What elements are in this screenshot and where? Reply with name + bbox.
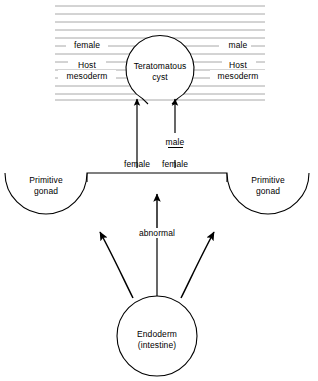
host-mesoderm-right-line1: Host	[218, 60, 259, 71]
arrow-endoderm-to-right-gonad	[181, 232, 214, 298]
cyst-gap-tail-left	[143, 99, 149, 104]
label-primitive-gonad-left: Primitive gonad	[29, 175, 63, 196]
endoderm-line1: Endoderm	[137, 329, 177, 340]
teratomatous-cyst-line1: Teratomatous	[134, 61, 187, 72]
label-male-host-right: male	[229, 40, 248, 51]
primitive-gonad-right-line2: gonad	[251, 186, 285, 197]
diagram-canvas: female male Host mesoderm Host mesoderm …	[0, 0, 318, 381]
label-female-host-left: female	[74, 40, 100, 51]
label-female-denominator: female	[162, 159, 188, 170]
host-mesoderm-left-line1: Host	[67, 60, 108, 71]
label-teratomatous-cyst: Teratomatous cyst	[134, 61, 187, 82]
primitive-gonad-left-line2: gonad	[29, 186, 63, 197]
label-male-numerator: male	[166, 137, 185, 148]
primitive-gonad-left-line1: Primitive	[29, 175, 63, 186]
endoderm-line2: (intestine)	[137, 340, 177, 351]
label-primitive-gonad-right: Primitive gonad	[251, 175, 285, 196]
primitive-gonad-right-line1: Primitive	[251, 175, 285, 186]
gonad-connector-bar	[87, 173, 227, 182]
label-host-mesoderm-right: Host mesoderm	[218, 60, 259, 81]
label-female-left-path: female	[124, 159, 150, 170]
host-mesoderm-left-line2: mesoderm	[67, 71, 108, 82]
label-abnormal: abnormal	[139, 228, 175, 239]
host-mesoderm-right-line2: mesoderm	[218, 71, 259, 82]
label-endoderm: Endoderm (intestine)	[137, 329, 177, 350]
arrow-endoderm-to-left-gonad	[100, 232, 133, 298]
teratomatous-cyst-line2: cyst	[134, 72, 187, 83]
label-host-mesoderm-left: Host mesoderm	[67, 60, 108, 81]
